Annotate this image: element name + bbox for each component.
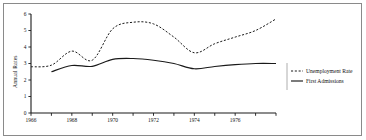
x-tick-label: 1976 (230, 117, 241, 123)
y-tick-label: 4 (24, 44, 27, 50)
y-tick-label: 1 (24, 93, 27, 99)
y-axis-title: Annual Rates (12, 55, 18, 88)
chart-screenshot: 0123456 196619681970197219741976 Annual … (0, 0, 366, 140)
legend-label-unemployment-rate: Unemployment Rate (306, 68, 353, 74)
y-tick-label: 0 (24, 110, 27, 116)
chart-canvas: 0123456 196619681970197219741976 Annual … (0, 0, 366, 140)
legend-item-unemployment-rate: Unemployment Rate (291, 68, 353, 74)
x-tick-label: 1974 (189, 117, 200, 123)
x-tick-label: 1972 (148, 117, 159, 123)
y-tick-label: 5 (24, 27, 27, 33)
x-tick-label: 1970 (107, 117, 118, 123)
y-tick-label: 6 (24, 11, 27, 17)
x-tick-label: 1968 (66, 117, 77, 123)
line-chart-figure: 0123456 196619681970197219741976 Annual … (0, 0, 366, 140)
y-axis-tick-labels: 0123456 (24, 11, 27, 116)
x-tick-label: 1966 (26, 117, 37, 123)
data-series (31, 19, 276, 72)
y-tick-label: 2 (24, 77, 27, 83)
legend-item-first-admissions: First Admissions (291, 78, 344, 84)
chart-legend: Unemployment Rate First Admissions (287, 63, 353, 90)
x-axis-tick-labels: 196619681970197219741976 (26, 117, 241, 123)
series-first-admissions (51, 58, 276, 71)
legend-label-first-admissions: First Admissions (306, 78, 344, 84)
y-tick-label: 3 (24, 60, 27, 66)
